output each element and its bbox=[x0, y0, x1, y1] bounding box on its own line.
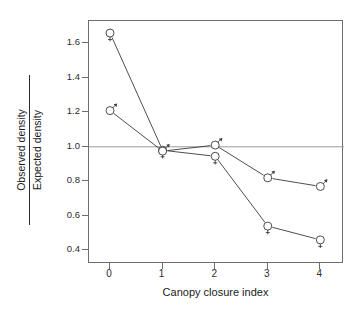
series-segment bbox=[272, 227, 315, 238]
data-point-male-3 bbox=[264, 171, 275, 182]
series-segment bbox=[114, 114, 159, 149]
y-tick-label: 0.8 bbox=[67, 175, 80, 185]
marker-circle bbox=[159, 147, 167, 155]
data-point-female-2 bbox=[211, 152, 219, 164]
x-tick-label: 3 bbox=[257, 268, 277, 279]
x-tick-label: 4 bbox=[309, 268, 329, 279]
series-segment bbox=[112, 37, 161, 145]
marker-circle bbox=[264, 174, 272, 182]
marker-circle bbox=[316, 182, 324, 190]
data-point-female-3 bbox=[264, 222, 272, 234]
x-tick-label: 0 bbox=[99, 268, 119, 279]
series-segment bbox=[167, 151, 210, 156]
marker-circle bbox=[106, 107, 114, 115]
plot-area bbox=[88, 20, 343, 263]
marker-circle bbox=[316, 236, 324, 244]
data-point-male-4 bbox=[316, 179, 327, 190]
y-tick-label: 0.6 bbox=[67, 210, 80, 220]
data-point-male-0 bbox=[106, 103, 117, 114]
series-female bbox=[112, 37, 316, 238]
x-tick-label: 2 bbox=[204, 268, 224, 279]
y-tick-label: 1.4 bbox=[67, 72, 80, 82]
series-segment bbox=[218, 160, 265, 222]
plot-svg bbox=[89, 21, 344, 264]
marker-circle bbox=[211, 152, 219, 160]
y-tick-label: 1.0 bbox=[67, 141, 80, 151]
data-point-male-2 bbox=[211, 138, 222, 149]
y-tick-label: 1.6 bbox=[67, 37, 80, 47]
data-point-female-4 bbox=[316, 236, 324, 248]
marker-circle bbox=[264, 222, 272, 230]
series-segment bbox=[272, 179, 315, 186]
y-tick-label: 1.2 bbox=[67, 106, 80, 116]
marker-circle bbox=[106, 29, 114, 37]
series-male bbox=[114, 114, 316, 186]
x-axis-title: Canopy closure index bbox=[88, 286, 343, 298]
y-tick-label: 0.4 bbox=[67, 244, 80, 254]
y-axis-tick-labels: 0.40.60.81.01.21.41.6 bbox=[0, 0, 88, 309]
figure-canvas: Observed density Expected density 0.40.6… bbox=[0, 0, 361, 309]
marker-circle bbox=[211, 141, 219, 149]
x-tick-label: 1 bbox=[152, 268, 172, 279]
